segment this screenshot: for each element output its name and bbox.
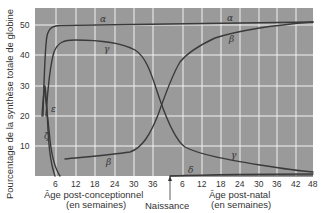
x-tick-labels-prenatal: 6 12 18 24 30 36 bbox=[53, 179, 158, 189]
alpha-label-2: α bbox=[227, 13, 233, 23]
gamma-label-2: γ bbox=[231, 150, 237, 160]
delta-label: δ bbox=[188, 165, 193, 175]
xtick: 12 bbox=[71, 179, 81, 189]
xtick: 30 bbox=[129, 179, 139, 189]
xtick: 18 bbox=[90, 179, 100, 189]
xtick: 36 bbox=[148, 179, 158, 189]
ytick: 40 bbox=[20, 50, 30, 60]
alpha-label-1: α bbox=[100, 14, 106, 24]
xtick: 42 bbox=[291, 179, 301, 189]
x-axis-label-postnatal-line2: (en semaines) bbox=[211, 199, 271, 210]
xtick: 6 bbox=[180, 179, 185, 189]
xtick: 24 bbox=[110, 179, 120, 189]
ytick: 10 bbox=[20, 141, 30, 151]
xtick: 24 bbox=[235, 179, 245, 189]
xtick: 18 bbox=[216, 179, 226, 189]
y-tick-labels: 50 40 30 20 10 bbox=[20, 20, 30, 151]
ytick: 30 bbox=[20, 81, 30, 91]
xtick: 48 bbox=[308, 179, 318, 189]
ytick: 20 bbox=[20, 111, 30, 121]
y-axis-label: Pourcentage de la synthèse totale de glo… bbox=[4, 9, 15, 199]
x-tick-labels-postnatal: 6 12 18 24 30 36 42 48 bbox=[180, 179, 318, 189]
xtick: 6 bbox=[53, 179, 58, 189]
plot-area bbox=[35, 8, 313, 176]
xtick: 12 bbox=[197, 179, 207, 189]
xtick: 30 bbox=[254, 179, 264, 189]
epsilon-label: ε bbox=[51, 104, 56, 114]
xtick: 36 bbox=[272, 179, 282, 189]
birth-label: Naissance bbox=[145, 200, 189, 211]
x-axis-label-prenatal-line2: (en semaines) bbox=[66, 199, 126, 210]
ytick: 50 bbox=[20, 20, 30, 30]
beta-label-2: β bbox=[228, 34, 234, 44]
gamma-label-1: γ bbox=[104, 44, 110, 54]
beta-label-1: β bbox=[105, 157, 111, 167]
globin-synthesis-chart: α α γ γ β β ε ζ δ Naissance 50 40 30 20 … bbox=[0, 0, 324, 213]
